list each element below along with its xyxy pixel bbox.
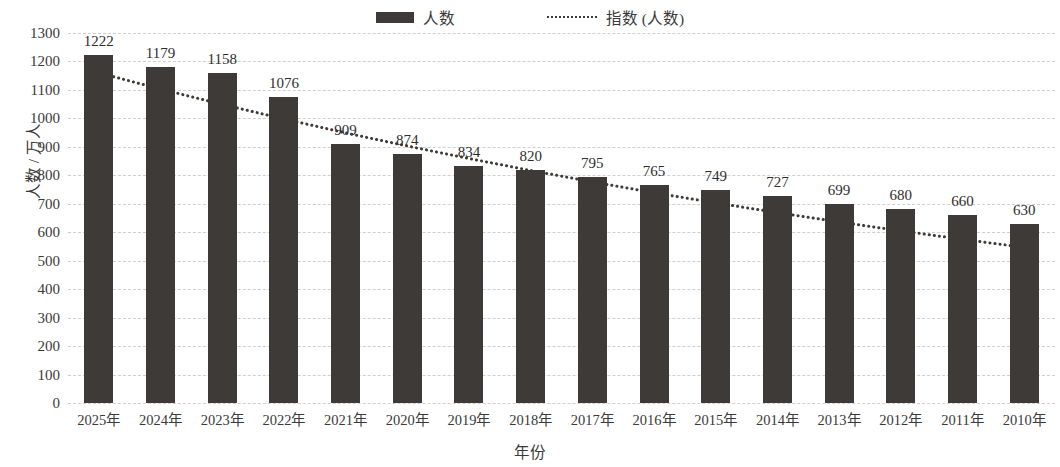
y-axis-tick-label: 400 xyxy=(6,282,60,297)
x-axis-tick-label: 2019年 xyxy=(447,408,490,429)
bar xyxy=(146,67,175,403)
y-axis-tick-label: 1000 xyxy=(6,111,60,126)
plot-area: 0100200300400500600700800900100011001200… xyxy=(68,33,1055,403)
y-axis-tick-label: 1100 xyxy=(6,83,60,98)
bar-value-label: 795 xyxy=(581,155,604,172)
y-axis-tick-label: 1300 xyxy=(6,26,60,41)
bar xyxy=(208,73,237,403)
bar xyxy=(886,209,915,403)
bar xyxy=(269,97,298,403)
x-axis-tick-label: 2021年 xyxy=(324,408,367,429)
bar-value-label: 660 xyxy=(951,193,974,210)
x-axis-tick-label: 2013年 xyxy=(818,408,861,429)
x-axis-tick-label: 2022年 xyxy=(262,408,305,429)
bar-value-label: 1222 xyxy=(84,33,114,50)
bar xyxy=(393,154,422,403)
bar xyxy=(948,215,977,403)
y-axis-tick-label: 700 xyxy=(6,197,60,212)
bar xyxy=(84,55,113,403)
bar-value-label: 1179 xyxy=(146,45,175,62)
bar-value-label: 749 xyxy=(704,168,727,185)
chart-legend: 人数 指数 (人数) xyxy=(0,4,1060,30)
legend-entry-trendline: 指数 (人数) xyxy=(547,6,684,28)
bar-value-label: 834 xyxy=(458,144,481,161)
bar xyxy=(454,166,483,403)
bar xyxy=(578,177,607,403)
bar xyxy=(331,144,360,403)
x-axis-tick-label: 2015年 xyxy=(694,408,737,429)
x-axis-tick-label: 2012年 xyxy=(879,408,922,429)
x-axis-tick-label: 2011年 xyxy=(941,408,983,429)
x-axis-tick-label: 2024年 xyxy=(139,408,182,429)
y-axis-tick-label: 600 xyxy=(6,225,60,240)
bar-value-label: 909 xyxy=(334,122,357,139)
y-axis-tick-label: 300 xyxy=(6,311,60,326)
gridline xyxy=(68,33,1055,34)
x-axis-tick-label: 2020年 xyxy=(386,408,429,429)
x-axis-tick-label: 2016年 xyxy=(633,408,676,429)
y-axis-tick-label: 0 xyxy=(6,396,60,411)
bar-value-label: 680 xyxy=(890,187,913,204)
bar xyxy=(516,170,545,403)
bar-value-label: 727 xyxy=(766,174,789,191)
x-axis-tick-label: 2014年 xyxy=(756,408,799,429)
legend-trendline-label: 指数 (人数) xyxy=(606,6,684,28)
bar-value-label: 630 xyxy=(1013,202,1036,219)
bar-value-label: 765 xyxy=(643,163,666,180)
legend-bar-swatch-icon xyxy=(376,12,414,23)
x-axis-tick-label: 2025年 xyxy=(77,408,120,429)
bar xyxy=(1010,224,1039,403)
y-axis-tick-label: 900 xyxy=(6,140,60,155)
bar-value-label: 1076 xyxy=(269,75,299,92)
x-axis-tick-label: 2017年 xyxy=(571,408,614,429)
bar-value-label: 1158 xyxy=(207,51,236,68)
bar xyxy=(701,190,730,403)
bar xyxy=(763,196,792,403)
x-axis-tick-label: 2023年 xyxy=(201,408,244,429)
x-axis-title: 年份 xyxy=(0,440,1060,462)
y-axis-tick-label: 800 xyxy=(6,168,60,183)
chart-container: 人数 指数 (人数) 人数 / 万人 年份 010020030040050060… xyxy=(0,0,1060,467)
gridline xyxy=(68,403,1055,404)
y-axis-tick-label: 500 xyxy=(6,254,60,269)
bar xyxy=(640,185,669,403)
legend-bar-label: 人数 xyxy=(423,6,455,28)
bar-value-label: 820 xyxy=(519,148,542,165)
y-axis-tick-label: 200 xyxy=(6,339,60,354)
y-axis-tick-label: 100 xyxy=(6,368,60,383)
legend-entry-bar: 人数 xyxy=(376,6,455,28)
y-axis-tick-label: 1200 xyxy=(6,54,60,69)
bar-value-label: 874 xyxy=(396,132,419,149)
bar-value-label: 699 xyxy=(828,182,851,199)
x-axis-tick-label: 2018年 xyxy=(509,408,552,429)
legend-trendline-swatch-icon xyxy=(547,16,597,18)
bar xyxy=(825,204,854,403)
x-axis-tick-label: 2010年 xyxy=(1003,408,1046,429)
